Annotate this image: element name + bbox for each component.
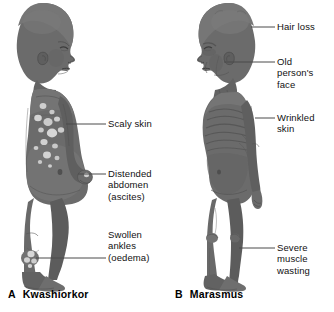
caption-letter-b: B [175, 288, 183, 300]
label-scaly-skin: Scaly skin [108, 118, 152, 129]
label-distended-abdomen: Distended abdomen (ascites) [108, 168, 152, 202]
caption-kwashiorkor: AKwashiorkor [8, 288, 89, 300]
kwashiorkor-legs [24, 198, 69, 281]
hair-loss-area [211, 10, 249, 34]
kwashiorkor-child-illustration [0, 0, 167, 312]
malnutrition-comparison-figure: Scaly skin Distended abdomen (ascites) S… [0, 0, 334, 312]
caption-marasmus: BMarasmus [175, 288, 243, 300]
label-severe-muscle-wasting: Severe muscle wasting [277, 242, 310, 276]
label-wrinkled-skin: Wrinkled skin [277, 112, 315, 135]
label-hair-loss: Hair loss [277, 21, 315, 32]
label-swollen-ankles: Swollen ankles (oedema) [108, 229, 149, 263]
caption-text-marasmus: Marasmus [190, 288, 244, 300]
panel-marasmus: Hair loss Old person's face Wrinkled ski… [167, 0, 334, 312]
caption-text-kwashiorkor: Kwashiorkor [23, 288, 89, 300]
caption-letter-a: A [8, 288, 16, 300]
panel-kwashiorkor: Scaly skin Distended abdomen (ascites) S… [0, 0, 167, 312]
label-old-persons-face: Old person's face [277, 56, 313, 90]
kwashiorkor-head [17, 3, 75, 83]
marasmus-head [197, 3, 255, 83]
swollen-ankles-oedema [21, 250, 39, 268]
marasmus-legs [206, 198, 243, 283]
